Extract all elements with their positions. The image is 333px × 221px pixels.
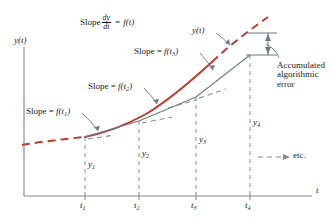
dy-dt-fraction: dydt — [102, 14, 112, 31]
y4-subscript: 4 — [257, 122, 260, 128]
slope-tick-4 — [199, 89, 226, 98]
error-arrow-up — [265, 34, 271, 41]
slope-t3-lead: Slope = — [134, 46, 162, 56]
tick-label-t3: t3 — [191, 201, 197, 211]
slope-tick-3 — [168, 100, 196, 108]
error-bracket — [246, 33, 277, 55]
y2-value-label: y2 — [142, 149, 149, 159]
slope-derivative-annotation: Slopedydt=f(t) — [80, 14, 134, 31]
drop-lines — [85, 55, 250, 192]
exact-solution-label: y(t) — [192, 26, 205, 35]
accumulated-error-annotation: Accumulated algorithmic error — [277, 61, 325, 89]
slope-t3-function: f(t — [164, 46, 172, 56]
y3-subscript: 3 — [203, 139, 206, 145]
t4-subscript: 4 — [248, 205, 251, 211]
x-axis-label: t — [316, 186, 319, 195]
t1-subscript: 1 — [83, 205, 86, 211]
etc-arrowhead — [283, 154, 290, 160]
y3-value-label: y3 — [199, 135, 206, 145]
slope-derivative-equals: = — [115, 17, 120, 27]
slope-t2-function: f(t — [118, 81, 126, 91]
exact-solution-curve — [22, 17, 268, 145]
tick-label-t1: t1 — [80, 201, 86, 211]
error-line-3: error — [277, 80, 325, 89]
slope-derivative-lead: Slope — [80, 17, 101, 27]
y1-value-label: y1 — [88, 160, 95, 170]
y-axis-label: y(t) — [14, 36, 27, 45]
y4-value-label: y4 — [253, 118, 260, 128]
t3-subscript: 3 — [194, 205, 197, 211]
axes-group — [24, 47, 312, 196]
slope-t3-close: ) — [175, 46, 178, 56]
slope-t2-annotation: Slope = f(t2) — [88, 82, 132, 92]
exact-curve-solid — [85, 62, 212, 137]
euler-segments — [85, 55, 250, 137]
slope-t1-function: f(t — [56, 106, 64, 116]
tick-label-t4: t4 — [245, 201, 251, 211]
slope-t1-close: ) — [67, 106, 70, 116]
tick-label-t2: t2 — [134, 201, 140, 211]
etc-label: etc. — [293, 151, 306, 160]
slope-t2-close: ) — [129, 81, 132, 91]
y1-subscript: 1 — [92, 164, 95, 170]
error-arrow-down — [265, 47, 271, 54]
slope-t2-lead: Slope = — [88, 81, 116, 91]
euler-polyline — [85, 55, 250, 137]
slope-derivative-function: f(t) — [123, 17, 134, 27]
exact-curve-dashed-left — [22, 137, 85, 145]
slope-t3-annotation: Slope = f(t3) — [134, 47, 178, 57]
slope-t1-lead: Slope = — [26, 106, 54, 116]
y2-subscript: 2 — [146, 153, 149, 159]
euler-error-figure: Slopedydt=f(t) y(t) Slope = f(t3) Slope … — [0, 0, 333, 221]
arrowhead-yt — [225, 39, 230, 45]
fraction-denominator: dt — [102, 23, 112, 31]
t2-subscript: 2 — [137, 205, 140, 211]
slope-t1-annotation: Slope = f(t1) — [26, 107, 70, 117]
